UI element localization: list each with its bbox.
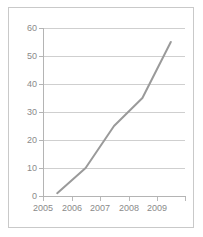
series-layer: [0, 0, 203, 237]
chart-figure: 60 50 40 30 20 10 0 2005 2006 2007 2008 …: [0, 0, 203, 237]
data-line-series-1: [57, 42, 171, 193]
